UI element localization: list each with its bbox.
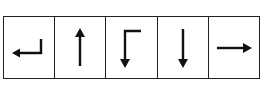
- down-arrow-icon: [173, 26, 193, 70]
- cell-2: [55, 17, 106, 78]
- right-then-down-arrow-icon: [117, 26, 147, 70]
- arrow-sequence-strip: [3, 16, 260, 79]
- cell-3: [106, 17, 157, 78]
- up-arrow-icon: [70, 26, 90, 70]
- cell-5: [209, 17, 259, 78]
- right-arrow-icon: [214, 38, 254, 58]
- return-left-arrow-icon: [9, 33, 49, 63]
- cell-4: [158, 17, 209, 78]
- cell-1: [4, 17, 55, 78]
